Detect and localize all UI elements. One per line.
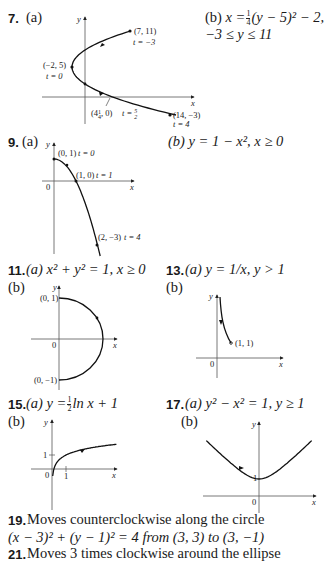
problem-19-line2: (x − 3)² + (y − 1)² = 4 from (3, 3) to (… (8, 529, 264, 546)
svg-text:x: x (311, 497, 316, 507)
problem-19-number: 19. (8, 513, 26, 528)
svg-text:y: y (251, 419, 256, 429)
problem-21-number: 21. (8, 547, 26, 562)
direction-arrow (239, 466, 244, 470)
problem-19-line1: Moves counterclockwise along the circle (27, 511, 265, 528)
problem-21-line1: Moves 3 times clockwise around the ellip… (27, 545, 281, 562)
problem-17-graph: y x 0 1 (0, 0, 335, 520)
svg-text:0: 0 (252, 497, 256, 507)
